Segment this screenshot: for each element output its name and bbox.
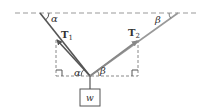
diagram-svg: α β T1 T2 α β w: [0, 0, 204, 112]
angle-label-bottom-left: α: [74, 67, 81, 78]
angle-arc-top-right: [169, 13, 171, 18]
rope-left: [40, 13, 90, 76]
tension-label-T1: T1: [61, 29, 73, 42]
force-diagram: α β T1 T2 α β w: [0, 0, 204, 112]
angle-arc-top-left: [46, 13, 49, 20]
tension-vector-T2: [90, 41, 137, 76]
angle-label-top-left: α: [51, 13, 58, 24]
angle-arc-bottom-left: [81, 69, 84, 76]
angle-label-bottom-right: β: [99, 65, 106, 76]
angle-label-top-right: β: [154, 14, 161, 25]
right-angle-marker-left: [56, 70, 62, 76]
angle-arc-bottom-right: [97, 71, 99, 76]
tension-label-T2: T2: [128, 27, 140, 40]
weight-label: w: [86, 93, 94, 103]
right-angle-marker-right: [132, 70, 138, 76]
